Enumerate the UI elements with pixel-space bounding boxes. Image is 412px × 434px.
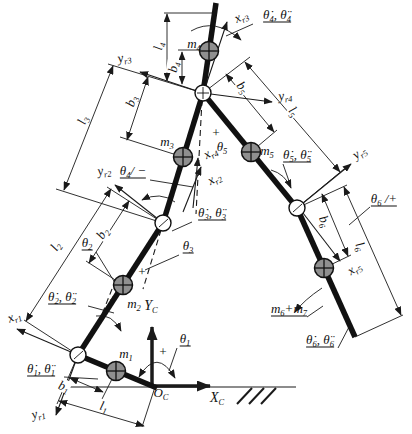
label-m1: m1: [119, 347, 133, 360]
label-theta3-rates: θ̇3, θ̈3: [198, 206, 226, 221]
label-theta4-rates: θ̇4, θ̈4: [263, 8, 291, 23]
label-theta1-rates: θ̇1, θ̈1: [27, 362, 55, 377]
label-b4: b4: [165, 60, 180, 75]
label-m5: m5: [260, 144, 274, 157]
label-y-r2: yr2: [96, 162, 111, 177]
label-theta4-sign: θ4/ −: [120, 164, 146, 179]
label-theta6-sign: θ6 /+: [371, 192, 397, 207]
label-plus-theta2: +: [109, 293, 118, 306]
label-plus-theta5: +: [212, 126, 221, 139]
label-b5: b5: [234, 78, 252, 96]
label-theta2-rates: θ̇2, θ̈2: [48, 290, 76, 305]
label-theta5-rates: θ̇5, θ̈5: [283, 148, 311, 163]
label-l6: l6: [353, 239, 369, 253]
label-x-r5: xr5: [345, 259, 363, 277]
label-l2: l2: [47, 238, 63, 253]
label-l5: l5: [286, 103, 302, 119]
label-Y-C: YC: [144, 299, 157, 313]
label-m4: m4: [187, 37, 201, 50]
label-plus-theta1: +: [159, 345, 168, 358]
biped-dynamics-diagram: xr3θ̇4, θ̈4m4l4b4yr3b3l3yr4b5l5+θ5m5θ̇5,…: [0, 0, 412, 434]
label-y-r1: yr1: [30, 405, 46, 421]
label-theta5: θ5: [217, 140, 228, 153]
label-plus-theta3: +: [138, 265, 147, 278]
label-x-r2: xr2: [205, 169, 223, 187]
label-x-r1: xr1: [5, 307, 22, 324]
label-layer: xr3θ̇4, θ̈4m4l4b4yr3b3l3yr4b5l5+θ5m5θ̇5,…: [0, 0, 412, 434]
label-theta2: θ2: [82, 236, 93, 251]
label-l3: l3: [74, 113, 90, 127]
label-b6: b6: [316, 213, 333, 230]
label-m6-plus-m7: m6+m7: [271, 302, 307, 317]
label-O-C: OC: [153, 386, 168, 399]
label-y-r4: yr4: [277, 88, 292, 103]
label-m2: m2: [127, 297, 141, 310]
label-theta1: θ1: [180, 332, 191, 347]
label-b3: b3: [123, 93, 139, 109]
label-y-r5: yr5: [350, 143, 368, 161]
label-x-r3: xr3: [232, 7, 250, 24]
label-y-r3: yr3: [116, 49, 132, 64]
label-m3: m3: [160, 135, 174, 148]
label-l4: l4: [151, 40, 166, 52]
label-b2: b2: [93, 224, 111, 242]
label-theta6-rates: θ̇6, θ̈6: [306, 333, 334, 348]
label-l1: l1: [98, 398, 111, 413]
label-b1: b1: [56, 378, 72, 395]
label-theta3: θ3: [183, 239, 194, 254]
label-X-C: XC: [210, 391, 224, 405]
